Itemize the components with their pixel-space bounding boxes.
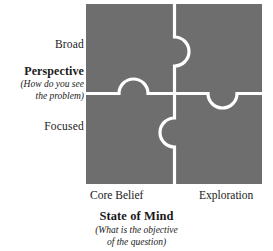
perspective-state-of-mind-matrix: Broad Perspective (How do you see the pr…	[0, 0, 273, 251]
y-axis-title-group: Perspective (How do you see the problem)	[0, 64, 84, 102]
y-axis-subtitle-line-2: the problem)	[0, 91, 84, 102]
y-axis-title: Perspective	[0, 64, 84, 78]
x-axis-title-group: State of Mind (What is the objective of …	[0, 209, 273, 248]
y-axis-label-broad: Broad	[55, 38, 84, 51]
y-axis-label-focused: Focused	[44, 120, 84, 133]
jigsaw-puzzle-graphic	[86, 4, 262, 184]
y-axis-subtitle-line-1: (How do you see	[0, 79, 84, 90]
x-axis-subtitle-line-2: of the question)	[0, 237, 273, 248]
x-axis-label-core-belief: Core Belief	[90, 189, 143, 202]
x-axis-label-exploration: Exploration	[199, 189, 253, 202]
x-axis-subtitle-line-1: (What is the objective	[0, 225, 273, 236]
x-axis-title: State of Mind	[0, 209, 273, 224]
